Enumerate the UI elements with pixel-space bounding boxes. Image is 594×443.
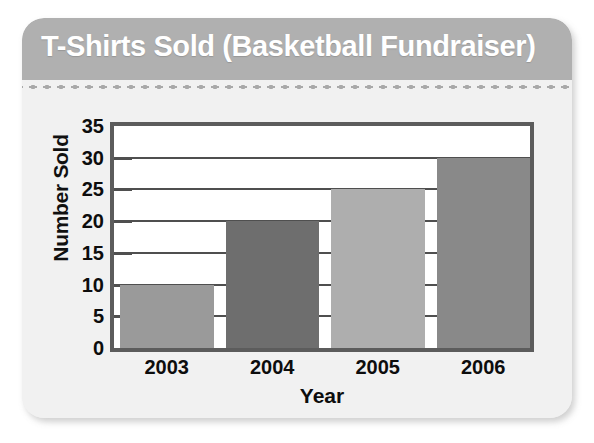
plot-inner: [114, 126, 530, 348]
y-tick-label: 0: [60, 338, 104, 358]
y-tick-label: 30: [60, 148, 104, 168]
chart-header-band: T-Shirts Sold (Basketball Fundraiser): [22, 18, 572, 80]
y-axis-tick-labels: 35302520151050: [60, 122, 104, 352]
x-axis-tick-labels: 2003200420052006: [110, 356, 534, 384]
x-tick-label: 2003: [120, 356, 214, 379]
y-tick-label: 15: [60, 243, 104, 263]
y-tick-label: 5: [60, 306, 104, 326]
x-axis-title: Year: [110, 384, 534, 408]
y-tick-label: 10: [60, 275, 104, 295]
x-tick-label: 2005: [331, 356, 425, 379]
bar-series: [114, 126, 530, 348]
chart-body: Number Sold 35302520151050 2003200420052…: [22, 90, 572, 418]
x-tick-label: 2006: [437, 356, 531, 379]
chart-card: T-Shirts Sold (Basketball Fundraiser) Nu…: [22, 18, 572, 418]
bar: [226, 221, 320, 348]
plot-area: [110, 122, 534, 352]
bar: [120, 285, 214, 348]
bar: [437, 158, 531, 348]
bar: [331, 189, 425, 348]
x-tick-label: 2004: [226, 356, 320, 379]
y-tick-label: 35: [60, 116, 104, 136]
y-tick-label: 20: [60, 211, 104, 231]
chart-title: T-Shirts Sold (Basketball Fundraiser): [41, 30, 535, 63]
y-tick-label: 25: [60, 179, 104, 199]
